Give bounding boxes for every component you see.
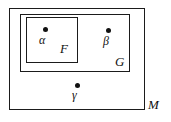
set-diagram: α β γ F G M xyxy=(0,0,171,122)
point-label-alpha: α xyxy=(39,34,45,46)
point-marker-alpha xyxy=(43,27,48,32)
point-marker-beta xyxy=(106,28,111,33)
set-label-g: G xyxy=(115,55,124,68)
set-boundary-f xyxy=(26,17,78,63)
point-label-beta: β xyxy=(103,35,109,47)
set-label-f: F xyxy=(60,42,68,55)
set-label-m: M xyxy=(148,98,159,111)
point-label-gamma: γ xyxy=(72,89,77,101)
